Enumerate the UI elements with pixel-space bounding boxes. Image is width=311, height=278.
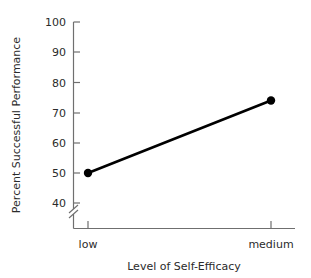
x-tick-label-medium: medium <box>248 238 293 251</box>
x-axis-title: Level of Self-Efficacy <box>127 260 241 273</box>
y-tick-label-80: 80 <box>52 77 66 90</box>
data-point-low <box>84 169 92 177</box>
y-axis-title: Percent Successful Performance <box>10 37 23 214</box>
line-chart: 100 90 80 70 60 50 40 low medium Level o… <box>0 0 311 278</box>
y-tick-label-50: 50 <box>52 167 66 180</box>
y-tick-label-100: 100 <box>45 16 66 29</box>
y-tick-label-60: 60 <box>52 137 66 150</box>
data-point-medium <box>267 96 275 104</box>
y-tick-label-40: 40 <box>52 197 66 210</box>
chart-background <box>0 0 311 278</box>
x-tick-label-low: low <box>79 238 98 251</box>
chart-figure: 100 90 80 70 60 50 40 low medium Level o… <box>0 0 311 278</box>
y-tick-label-90: 90 <box>52 46 66 59</box>
y-tick-label-70: 70 <box>52 107 66 120</box>
